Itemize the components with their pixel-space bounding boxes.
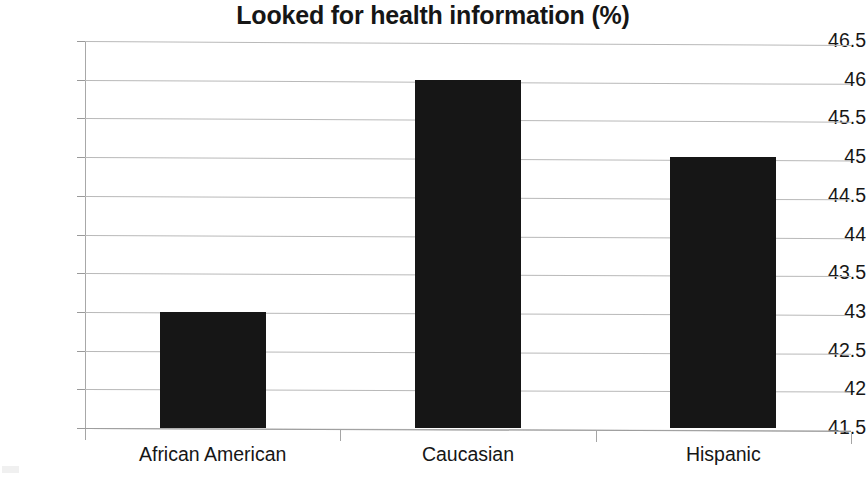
x-axis-separator bbox=[851, 433, 852, 444]
x-axis-tick-label: Hispanic bbox=[596, 443, 851, 466]
x-axis-separator bbox=[340, 430, 341, 441]
bar-chart: Looked for health information (%) 46.546… bbox=[0, 0, 866, 479]
bar bbox=[670, 157, 776, 428]
x-axis-separator bbox=[596, 431, 597, 442]
plot-area bbox=[85, 41, 851, 428]
x-axis-line bbox=[85, 428, 851, 432]
x-axis-tick-label: Caucasian bbox=[340, 443, 595, 466]
bar bbox=[160, 312, 266, 428]
chart-title: Looked for health information (%) bbox=[0, 1, 866, 30]
bar bbox=[415, 80, 521, 428]
x-axis-separator bbox=[85, 429, 86, 440]
scan-artifact bbox=[2, 466, 19, 473]
gridline bbox=[85, 41, 851, 46]
x-axis-tick-label: African American bbox=[85, 443, 340, 466]
